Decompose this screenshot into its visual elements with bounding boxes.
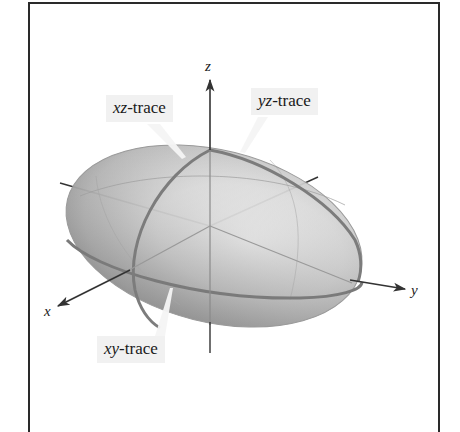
x-axis-label: x	[44, 303, 51, 319]
xz-trace-label: xz-trace	[106, 95, 173, 122]
xy-trace-label: xy-trace	[97, 336, 165, 363]
xz-trace-suffix: -trace	[127, 98, 166, 117]
z-axis-label: z	[205, 58, 211, 74]
xy-trace-var: xy	[104, 339, 119, 358]
yz-leader	[240, 117, 268, 153]
xy-trace-suffix: -trace	[119, 339, 158, 358]
yz-trace-suffix: -trace	[272, 91, 311, 110]
yz-trace-var: yz	[258, 91, 272, 110]
xz-trace-var: xz	[113, 98, 127, 117]
yz-trace-label: yz-trace	[251, 88, 318, 115]
y-axis-label: y	[411, 282, 418, 298]
